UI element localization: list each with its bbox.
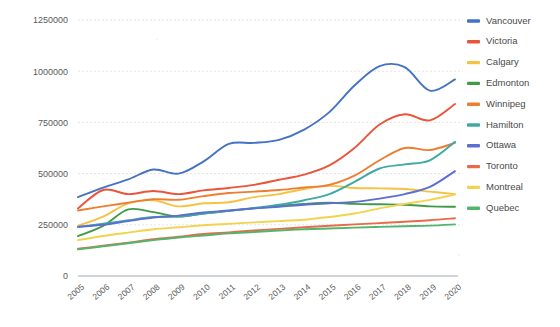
legend-item-calgary[interactable]: Calgary	[467, 56, 519, 67]
y-tick-label: 750000	[38, 118, 68, 128]
legend-label: Vancouver	[486, 15, 531, 26]
series-line-victoria	[78, 104, 455, 208]
legend-swatch-icon	[467, 123, 480, 126]
legend-item-quebec[interactable]: Quebec	[467, 202, 520, 213]
legend-label: Calgary	[486, 56, 519, 67]
legend-label: Winnipeg	[486, 98, 526, 109]
x-tick-label: 2010	[191, 282, 212, 302]
x-tick-label: 2019	[417, 282, 438, 302]
legend-item-vancouver[interactable]: Vancouver	[467, 15, 531, 26]
legend-swatch-icon	[467, 207, 480, 210]
legend-label: Toronto	[486, 160, 518, 171]
legend-swatch-icon	[467, 165, 480, 168]
y-tick-label: 1000000	[33, 67, 68, 77]
legend-swatch-icon	[467, 40, 480, 43]
legend-label: Edmonton	[486, 77, 529, 88]
legend-label: Quebec	[486, 202, 520, 213]
legend-swatch-icon	[467, 19, 480, 22]
x-tick-label: 2008	[141, 282, 162, 302]
series-line-toronto	[78, 218, 455, 249]
x-axis-tick-labels: 2005200620072008200920102011201220132014…	[65, 282, 463, 302]
series-line-hamilton	[78, 142, 455, 227]
legend-item-montreal[interactable]: Montreal	[467, 181, 523, 192]
x-tick-label: 2013	[266, 282, 287, 302]
legend-swatch-icon	[467, 61, 480, 64]
chart-canvas: 025000050000075000010000001250000 200520…	[0, 0, 560, 327]
x-tick-label: 2020	[442, 282, 463, 302]
y-tick-label: 0	[63, 271, 68, 281]
y-tick-label: 250000	[38, 220, 68, 230]
legend-item-victoria[interactable]: Victoria	[467, 35, 518, 46]
y-axis-tick-labels: 025000050000075000010000001250000	[33, 15, 68, 281]
x-tick-label: 2006	[90, 282, 111, 302]
legend-item-winnipeg[interactable]: Winnipeg	[467, 98, 526, 109]
chart-legend: VancouverVictoriaCalgaryEdmontonWinnipeg…	[467, 15, 531, 213]
line-chart: 025000050000075000010000001250000 200520…	[0, 0, 560, 327]
legend-label: Hamilton	[486, 119, 524, 130]
legend-label: Victoria	[486, 35, 518, 46]
x-tick-label: 2011	[217, 282, 238, 302]
series-line-quebec	[78, 224, 455, 249]
x-tick-label: 2012	[241, 282, 262, 302]
x-tick-label: 2017	[367, 282, 388, 302]
legend-item-edmonton[interactable]: Edmonton	[467, 77, 529, 88]
legend-swatch-icon	[467, 144, 480, 147]
x-tick-label: 2015	[317, 282, 338, 302]
y-tick-label: 1250000	[33, 15, 68, 25]
x-tick-label: 2007	[116, 282, 137, 302]
x-tick-label: 2018	[392, 282, 413, 302]
x-tick-label: 2014	[292, 282, 313, 302]
x-tick-label: 2005	[65, 282, 86, 302]
legend-item-hamilton[interactable]: Hamilton	[467, 119, 524, 130]
legend-swatch-icon	[467, 103, 480, 106]
y-tick-label: 500000	[38, 169, 68, 179]
legend-swatch-icon	[467, 186, 480, 189]
legend-label: Ottawa	[486, 139, 517, 150]
x-tick-label: 2016	[342, 282, 363, 302]
legend-item-ottawa[interactable]: Ottawa	[467, 139, 517, 150]
series-lines	[78, 64, 455, 249]
legend-item-toronto[interactable]: Toronto	[467, 160, 518, 171]
series-line-vancouver	[78, 64, 455, 197]
legend-swatch-icon	[467, 82, 480, 85]
x-tick-label: 2009	[166, 282, 187, 302]
legend-label: Montreal	[486, 181, 523, 192]
